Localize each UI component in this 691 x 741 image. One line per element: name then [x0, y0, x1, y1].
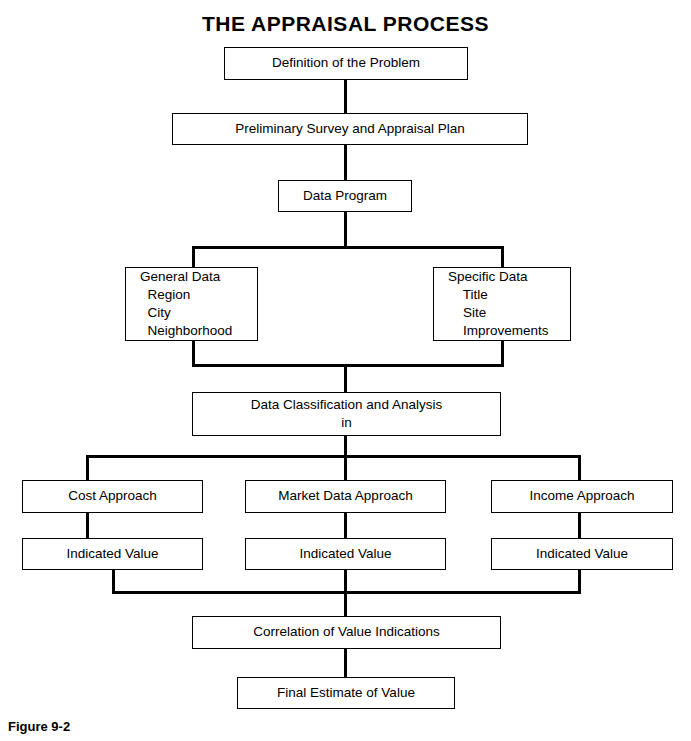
node-label: Indicated Value [66, 545, 158, 563]
figure-caption: Figure 9-2 [8, 719, 70, 734]
connector-specific-data-down [501, 341, 504, 366]
node-label: Preliminary Survey and Appraisal Plan [235, 120, 465, 138]
connector-approaches-split-bar [86, 455, 581, 458]
connector-split-to-general-data [192, 246, 195, 269]
connector-general-data-down [192, 341, 195, 366]
node-label: Income Approach [529, 487, 634, 505]
node-label: Cost Approach [68, 487, 157, 505]
connector-split-to-market-approach [344, 455, 347, 481]
node-label: Market Data Approach [278, 487, 412, 505]
connector-definition-to-preliminary [344, 80, 347, 114]
node-market-indicated-value: Indicated Value [245, 538, 446, 570]
connector-data-program-stem [344, 212, 347, 248]
connector-cost-to-indicated-value [86, 513, 89, 539]
node-label: Data Classification and Analysis in [251, 396, 442, 432]
node-definition-of-the-problem: Definition of the Problem [224, 47, 468, 80]
node-label: Specific Data Title Site Improvements [448, 268, 549, 341]
connector-merge-to-classification [344, 364, 347, 394]
node-general-data: General Data Region City Neighborhood [125, 267, 258, 341]
node-label: General Data Region City Neighborhood [140, 268, 232, 341]
connector-split-to-cost-approach [86, 455, 89, 481]
page-title: THE APPRAISAL PROCESS [0, 12, 691, 36]
node-preliminary-survey: Preliminary Survey and Appraisal Plan [172, 113, 528, 145]
connector-split-to-specific-data [501, 246, 504, 269]
node-label: Correlation of Value Indications [253, 623, 440, 641]
node-label: Definition of the Problem [272, 54, 420, 72]
node-label: Final Estimate of Value [277, 684, 415, 702]
node-income-approach: Income Approach [491, 480, 673, 513]
node-cost-indicated-value: Indicated Value [22, 538, 203, 570]
node-data-classification: Data Classification and Analysis in [192, 392, 501, 436]
connector-data-merge-bar [192, 364, 504, 367]
node-market-data-approach: Market Data Approach [245, 480, 446, 513]
node-label: Indicated Value [299, 545, 391, 563]
connector-income-to-indicated-value [578, 513, 581, 539]
connector-market-to-indicated-value [344, 513, 347, 539]
node-correlation-of-value-indications: Correlation of Value Indications [192, 616, 501, 649]
connector-preliminary-to-data-program [344, 145, 347, 181]
connector-data-split-bar [192, 246, 504, 249]
node-label: Indicated Value [536, 545, 628, 563]
node-data-program: Data Program [278, 180, 412, 212]
connector-split-to-income-approach [578, 455, 581, 481]
node-specific-data: Specific Data Title Site Improvements [433, 267, 571, 341]
node-cost-approach: Cost Approach [22, 480, 203, 513]
node-final-estimate-of-value: Final Estimate of Value [237, 677, 455, 709]
node-income-indicated-value: Indicated Value [491, 538, 673, 570]
appraisal-process-figure: THE APPRAISAL PROCESS Definition of the … [0, 0, 691, 741]
node-label: Data Program [303, 187, 387, 205]
connector-correlation-to-final-estimate [344, 649, 347, 678]
connector-merge-to-correlation [344, 591, 347, 617]
